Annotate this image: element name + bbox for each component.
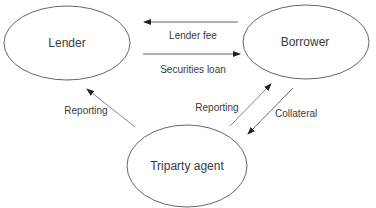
edge-reporting-to-lender: Reporting	[64, 89, 135, 127]
node-label-lender: Lender	[48, 36, 85, 50]
securities-lending-diagram: Lender Borrower Triparty agent Lender fe…	[0, 0, 376, 208]
node-label-borrower: Borrower	[281, 35, 330, 49]
node-triparty-agent: Triparty agent	[127, 125, 247, 207]
edge-securities-loan: Securities loan	[143, 54, 240, 75]
edge-label-lender-fee: Lender fee	[169, 30, 217, 41]
edge-label-reporting-borrower: Reporting	[195, 102, 238, 113]
edge-collateral: Collateral	[248, 88, 317, 134]
edge-label-collateral: Collateral	[275, 108, 317, 119]
edge-label-reporting-lender: Reporting	[64, 105, 107, 116]
edge-lender-fee: Lender fee	[144, 22, 238, 41]
node-label-triparty-agent: Triparty agent	[150, 159, 224, 173]
edge-label-securities-loan: Securities loan	[160, 64, 226, 75]
node-lender: Lender	[4, 6, 130, 80]
edge-reporting-to-borrower: Reporting	[195, 84, 271, 126]
node-borrower: Borrower	[243, 5, 369, 79]
